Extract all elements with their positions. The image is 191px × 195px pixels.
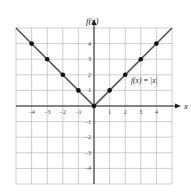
- x-tick-label: 3: [139, 109, 142, 115]
- y-tick-label: −4: [85, 165, 91, 171]
- y-tick-label: 2: [88, 72, 91, 78]
- x-axis-label: x: [183, 101, 188, 111]
- x-tick-label: 4: [155, 109, 158, 115]
- data-point: [92, 104, 97, 109]
- y-tick-label: 3: [88, 56, 91, 62]
- x-tick-label: −2: [60, 109, 66, 115]
- data-point: [61, 73, 66, 78]
- y-axis-label: f(x): [86, 16, 99, 26]
- function-label: f(x) = |x|: [131, 76, 158, 85]
- x-tick-label: −3: [44, 109, 50, 115]
- data-point: [154, 41, 159, 46]
- x-axis-arrow-icon: [175, 104, 181, 109]
- data-point: [45, 57, 50, 62]
- y-tick-label: −3: [85, 150, 91, 156]
- x-tick-label: 2: [124, 109, 127, 115]
- data-point: [29, 41, 34, 46]
- data-point: [139, 57, 144, 62]
- x-tick-label: −1: [75, 109, 81, 115]
- y-tick-label: −1: [85, 119, 91, 125]
- x-tick-label: 1: [108, 109, 111, 115]
- data-point: [123, 73, 128, 78]
- y-tick-label: −2: [85, 134, 91, 140]
- x-tick-label: −4: [28, 109, 34, 115]
- data-point: [107, 88, 112, 93]
- y-tick-label: 4: [88, 41, 91, 47]
- data-point: [76, 88, 81, 93]
- y-tick-label: 1: [88, 87, 91, 93]
- absolute-value-graph: −4−3−2−112344321−1−2−3−4 f(x) x f(x) = |…: [0, 0, 191, 195]
